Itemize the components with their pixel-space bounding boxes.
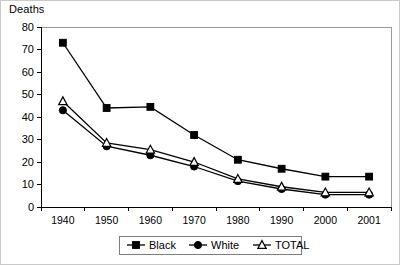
svg-text:50: 50 [22,88,34,100]
svg-text:20: 20 [22,156,34,168]
svg-text:40: 40 [22,111,34,123]
svg-text:White: White [211,239,239,251]
svg-text:1990: 1990 [270,214,294,226]
svg-text:1940: 1940 [51,214,75,226]
svg-text:1950: 1950 [95,214,119,226]
svg-text:80: 80 [22,21,34,33]
svg-text:1980: 1980 [226,214,250,226]
plot-area: 0102030405060708019401950196019701980199… [1,1,400,265]
svg-text:1970: 1970 [182,214,206,226]
svg-text:30: 30 [22,133,34,145]
svg-text:Black: Black [149,239,176,251]
svg-text:60: 60 [22,66,34,78]
svg-text:10: 10 [22,178,34,190]
line-chart-svg: 0102030405060708019401950196019701980199… [1,1,400,265]
svg-text:2001: 2001 [357,214,381,226]
svg-text:1960: 1960 [139,214,163,226]
svg-text:0: 0 [28,201,34,213]
svg-text:70: 70 [22,43,34,55]
svg-text:TOTAL: TOTAL [275,239,309,251]
chart-figure: Deaths 010203040506070801940195019601970… [0,0,400,265]
svg-text:2000: 2000 [314,214,338,226]
